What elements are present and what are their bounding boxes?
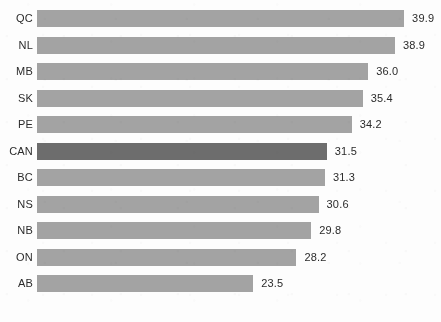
bar-track: 38.9 bbox=[37, 37, 441, 54]
bar-row: BC31.3 bbox=[0, 169, 441, 186]
category-label-sk: SK bbox=[0, 90, 33, 107]
bar-qc[interactable] bbox=[37, 10, 404, 27]
category-label-pe: PE bbox=[0, 116, 33, 133]
value-label-mb: 36.0 bbox=[376, 63, 398, 80]
bar-track: 29.8 bbox=[37, 222, 441, 239]
value-label-qc: 39.9 bbox=[412, 10, 434, 27]
value-label-sk: 35.4 bbox=[371, 90, 393, 107]
value-label-ns: 30.6 bbox=[327, 196, 349, 213]
bar-track: 31.5 bbox=[37, 143, 441, 160]
value-label-on: 28.2 bbox=[304, 249, 326, 266]
category-label-nl: NL bbox=[0, 37, 33, 54]
bar-sk[interactable] bbox=[37, 90, 363, 107]
bar-row: MB36.0 bbox=[0, 63, 441, 80]
value-label-can: 31.5 bbox=[335, 143, 357, 160]
category-label-mb: MB bbox=[0, 63, 33, 80]
value-label-bc: 31.3 bbox=[333, 169, 355, 186]
bar-ns[interactable] bbox=[37, 196, 319, 213]
bar-row: CAN31.5 bbox=[0, 143, 441, 160]
bar-row: ON28.2 bbox=[0, 249, 441, 266]
bar-row: NB29.8 bbox=[0, 222, 441, 239]
bar-track: 35.4 bbox=[37, 90, 441, 107]
chart-plot-area: QC39.9NL38.9MB36.0SK35.4PE34.2CAN31.5BC3… bbox=[0, 0, 441, 322]
bar-row: NL38.9 bbox=[0, 37, 441, 54]
bar-nl[interactable] bbox=[37, 37, 395, 54]
value-label-nb: 29.8 bbox=[319, 222, 341, 239]
category-label-bc: BC bbox=[0, 169, 33, 186]
bar-track: 31.3 bbox=[37, 169, 441, 186]
category-label-ab: AB bbox=[0, 275, 33, 292]
category-label-qc: QC bbox=[0, 10, 33, 27]
bar-chart: QC39.9NL38.9MB36.0SK35.4PE34.2CAN31.5BC3… bbox=[0, 0, 441, 322]
bar-row: PE34.2 bbox=[0, 116, 441, 133]
bar-ab[interactable] bbox=[37, 275, 253, 292]
category-label-ns: NS bbox=[0, 196, 33, 213]
category-label-on: ON bbox=[0, 249, 33, 266]
value-label-ab: 23.5 bbox=[261, 275, 283, 292]
bar-track: 23.5 bbox=[37, 275, 441, 292]
bar-can[interactable] bbox=[37, 143, 327, 160]
bar-bc[interactable] bbox=[37, 169, 325, 186]
bar-on[interactable] bbox=[37, 249, 296, 266]
bar-track: 34.2 bbox=[37, 116, 441, 133]
bar-row: AB23.5 bbox=[0, 275, 441, 292]
bar-row: QC39.9 bbox=[0, 10, 441, 27]
category-label-nb: NB bbox=[0, 222, 33, 239]
bar-mb[interactable] bbox=[37, 63, 368, 80]
bar-track: 28.2 bbox=[37, 249, 441, 266]
bar-row: SK35.4 bbox=[0, 90, 441, 107]
bar-track: 39.9 bbox=[37, 10, 441, 27]
bar-track: 30.6 bbox=[37, 196, 441, 213]
bar-nb[interactable] bbox=[37, 222, 311, 239]
category-label-can: CAN bbox=[0, 143, 33, 160]
bar-track: 36.0 bbox=[37, 63, 441, 80]
value-label-nl: 38.9 bbox=[403, 37, 425, 54]
bar-row: NS30.6 bbox=[0, 196, 441, 213]
value-label-pe: 34.2 bbox=[360, 116, 382, 133]
bar-pe[interactable] bbox=[37, 116, 352, 133]
